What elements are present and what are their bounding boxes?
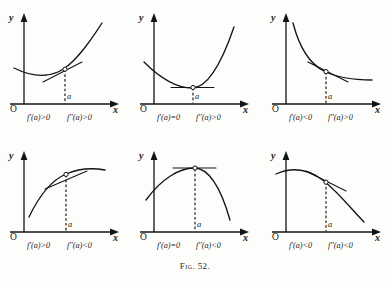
second-derivative-label: f''(a)>0 <box>328 113 353 122</box>
tangency-point-marker <box>193 166 197 170</box>
y-axis-label: y <box>139 150 143 161</box>
function-curve <box>14 23 102 75</box>
abscissa-label-a: a <box>197 219 201 229</box>
y-axis-arrowhead <box>283 151 290 160</box>
tangent-line <box>43 62 82 82</box>
figure-caption: Fig. 52. <box>0 261 390 271</box>
function-curve <box>293 23 372 80</box>
function-curve <box>144 27 234 88</box>
first-derivative-label: f'(a)=0 <box>157 113 180 122</box>
panel-1-drawing <box>0 0 130 140</box>
abscissa-label-a: a <box>67 91 71 101</box>
abscissa-label-a: a <box>68 219 72 229</box>
y-axis-label: y <box>9 12 13 23</box>
second-derivative-label: f''(a)>0 <box>67 113 92 122</box>
second-derivative-label: f''(a)<0 <box>328 241 353 250</box>
origin-label: O <box>10 104 17 114</box>
panel-3-drawing <box>260 0 390 140</box>
x-axis-label: x <box>375 232 380 243</box>
panel-2-drawing <box>130 0 260 140</box>
tangency-point-marker <box>324 180 328 184</box>
abscissa-label-a: a <box>328 219 332 229</box>
origin-label: O <box>140 104 147 114</box>
tangency-point-marker <box>63 67 67 71</box>
tangency-point-marker <box>324 70 328 74</box>
x-axis-label: x <box>243 232 248 243</box>
origin-label: O <box>10 232 17 242</box>
y-axis-arrowhead <box>151 151 158 160</box>
figure-panel-grid: y x O a f'(a)>0 f''(a)>0 y x O a f'(a)=0… <box>0 0 390 262</box>
first-derivative-label: f'(a)>0 <box>27 241 50 250</box>
x-axis-label: x <box>113 104 118 115</box>
y-axis-label: y <box>9 150 13 161</box>
first-derivative-label: f'(a)<0 <box>289 241 312 250</box>
panel-4-drawing <box>0 140 130 262</box>
first-derivative-label: f'(a)>0 <box>27 113 50 122</box>
tangency-point-marker <box>64 172 68 176</box>
x-axis-label: x <box>243 104 248 115</box>
y-axis-label: y <box>139 12 143 23</box>
figure-panel-6: y x O a f'(a)<0 f''(a)<0 <box>260 140 390 262</box>
figure-panel-5: y x O a f'(a)=0 f''(a)<0 <box>130 140 260 262</box>
x-axis-label: x <box>375 104 380 115</box>
x-axis-label: x <box>113 232 118 243</box>
y-axis-label: y <box>271 12 275 23</box>
y-axis-arrowhead <box>21 13 28 22</box>
second-derivative-label: f''(a)<0 <box>196 241 221 250</box>
second-derivative-label: f''(a)<0 <box>67 241 92 250</box>
first-derivative-label: f'(a)<0 <box>289 113 312 122</box>
abscissa-label-a: a <box>328 91 332 101</box>
function-curve <box>146 168 230 220</box>
first-derivative-label: f'(a)=0 <box>157 241 180 250</box>
figure-panel-2: y x O a f'(a)=0 f''(a)>0 <box>130 0 260 140</box>
y-axis-arrowhead <box>151 13 158 22</box>
figure-panel-4: y x O a f'(a)>0 f''(a)<0 <box>0 140 130 262</box>
origin-label: O <box>272 104 279 114</box>
panel-5-drawing <box>130 140 260 262</box>
abscissa-label-a: a <box>195 91 199 101</box>
panel-6-drawing <box>260 140 390 262</box>
y-axis-arrowhead <box>21 151 28 160</box>
tangency-point-marker <box>191 85 195 89</box>
y-axis-label: y <box>271 150 275 161</box>
y-axis-arrowhead <box>283 13 290 22</box>
origin-label: O <box>140 232 147 242</box>
origin-label: O <box>272 232 279 242</box>
figure-panel-1: y x O a f'(a)>0 f''(a)>0 <box>0 0 130 140</box>
figure-panel-3: y x O a f'(a)<0 f''(a)>0 <box>260 0 390 140</box>
second-derivative-label: f''(a)>0 <box>196 113 221 122</box>
